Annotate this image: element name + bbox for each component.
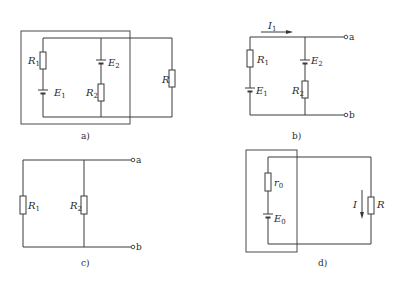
terminal-label-a: a [349,32,355,42]
terminal-label-b: b [349,110,355,120]
label-r1: R1 [27,200,40,213]
label-r: R [376,199,385,210]
terminal-b [344,113,348,117]
wire [43,38,172,117]
label-r: R [161,74,170,85]
panel-d: r0 E0 I R d) [246,150,385,268]
resistor-r2 [98,84,104,101]
label-e2: E2 [310,55,323,68]
resistor-r1 [247,50,253,67]
terminal-a [344,35,348,39]
circuit-figure: R1 E1 E2 R2 R a) a b I1 R1 E1 E2 R2 b) [0,0,401,284]
label-i1: I1 [267,20,276,33]
label-e1: E1 [53,87,66,100]
terminal-label-a: a [136,155,142,165]
terminal-b [131,245,135,249]
label-r1: R1 [27,55,40,68]
terminal-label-b: b [136,242,142,252]
label-e2: E2 [107,57,120,70]
label-r0: r0 [274,177,283,190]
label-e0: E0 [273,213,286,226]
terminal-a [131,158,135,162]
equivalent-source-box [21,31,130,124]
label-r2: R2 [85,87,98,100]
arrowhead-icon [286,30,293,34]
caption-c: c) [81,258,90,268]
panel-b: a b I1 R1 E1 E2 R2 b) [245,20,355,141]
resistor-r-load [368,197,374,214]
resistor-r1 [20,196,26,214]
label-r1: R1 [256,54,269,67]
resistor-r0 [265,173,271,191]
label-e1: E1 [255,85,268,98]
label-i: I [352,199,358,210]
panel-c: a b R1 R2 c) [20,155,142,268]
resistor-r1 [40,52,46,69]
equivalent-source-box [246,150,297,252]
resistor-r-load [169,70,175,87]
caption-d: d) [318,258,327,268]
panel-a: R1 E1 E2 R2 R a) [21,31,175,141]
caption-b: b) [292,131,301,141]
wire [250,37,344,115]
caption-a: a) [81,131,90,141]
arrowhead-icon [360,212,364,219]
label-r2: R2 [69,200,82,213]
